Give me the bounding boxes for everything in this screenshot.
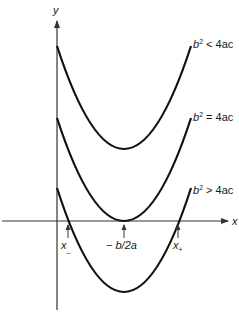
x-axis-label: x	[231, 215, 238, 227]
label-x-minus: x_	[60, 239, 71, 254]
label-b2-equal-4ac: b2 = 4ac	[193, 111, 234, 123]
label-x-plus: x+	[172, 239, 183, 253]
y-axis-label: y	[52, 4, 60, 16]
label-vertex: − b/2a	[106, 239, 137, 251]
label-b2-greater-4ac: b2 > 4ac	[193, 184, 234, 196]
curve-b2-equal-4ac	[57, 118, 191, 221]
label-b2-less-4ac: b2 < 4ac	[193, 38, 234, 50]
parabola-diagram: y x b2 < 4ac b2 = 4ac b2 > 4ac x_ − b/2a…	[0, 0, 239, 314]
curve-b2-less-4ac	[57, 46, 191, 149]
